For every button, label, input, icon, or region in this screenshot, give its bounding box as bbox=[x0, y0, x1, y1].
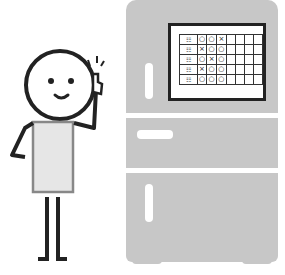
person-figure bbox=[0, 0, 125, 275]
row-label: ☷ bbox=[180, 65, 198, 75]
fridge-handle-middle bbox=[137, 130, 173, 139]
schedule-board: ☷○○×☷×○○☷○×○☷×○○☷○○○ bbox=[168, 23, 266, 101]
fridge-foot-left bbox=[132, 256, 162, 264]
grid-row: ☷○○○ bbox=[180, 75, 263, 85]
row-label: ☷ bbox=[180, 75, 198, 85]
grid-cell bbox=[235, 45, 244, 55]
fridge-handle-top bbox=[145, 63, 153, 99]
grid-cell bbox=[226, 35, 235, 45]
fridge-foot-right bbox=[242, 256, 272, 264]
grid-cell bbox=[253, 55, 262, 65]
row-label: ☷ bbox=[180, 35, 198, 45]
grid-cell: ○ bbox=[207, 35, 217, 45]
grid-cell bbox=[226, 55, 235, 65]
pointing-hand-icon bbox=[93, 74, 102, 94]
grid-row: ☷×○○ bbox=[180, 45, 263, 55]
grid-cell: × bbox=[197, 65, 207, 75]
grid-cell bbox=[244, 45, 253, 55]
grid-row: ☷×○○ bbox=[180, 65, 263, 75]
grid-cell bbox=[244, 55, 253, 65]
fridge-divider-top bbox=[126, 113, 278, 118]
grid-row: ☷○×○ bbox=[180, 55, 263, 65]
grid-row: ☷○○× bbox=[180, 35, 263, 45]
grid-cell: ○ bbox=[216, 75, 226, 85]
row-label: ☷ bbox=[180, 55, 198, 65]
grid-cell bbox=[244, 75, 253, 85]
shirt bbox=[33, 122, 73, 192]
grid-cell bbox=[235, 75, 244, 85]
grid-cell: ○ bbox=[197, 55, 207, 65]
grid-cell bbox=[253, 35, 262, 45]
grid-cell: ○ bbox=[197, 75, 207, 85]
schedule-grid: ☷○○×☷×○○☷○×○☷×○○☷○○○ bbox=[179, 34, 263, 85]
grid-cell: ○ bbox=[216, 65, 226, 75]
row-label: ☷ bbox=[180, 45, 198, 55]
grid-cell: × bbox=[207, 55, 217, 65]
grid-cell bbox=[226, 75, 235, 85]
grid-cell: ○ bbox=[216, 45, 226, 55]
grid-cell bbox=[235, 35, 244, 45]
grid-cell bbox=[226, 65, 235, 75]
grid-cell bbox=[253, 45, 262, 55]
grid-cell bbox=[253, 65, 262, 75]
grid-cell bbox=[253, 75, 262, 85]
grid-cell: ○ bbox=[207, 45, 217, 55]
grid-cell: ○ bbox=[207, 75, 217, 85]
head-icon bbox=[26, 51, 94, 119]
grid-cell: × bbox=[197, 45, 207, 55]
fridge-handle-bottom bbox=[145, 184, 153, 222]
grid-cell bbox=[244, 65, 253, 75]
grid-cell: ○ bbox=[197, 35, 207, 45]
grid-cell bbox=[226, 45, 235, 55]
illustration-scene: ☷○○×☷×○○☷○×○☷×○○☷○○○ bbox=[0, 0, 285, 275]
grid-cell bbox=[235, 65, 244, 75]
grid-cell: ○ bbox=[216, 55, 226, 65]
grid-cell bbox=[235, 55, 244, 65]
grid-cell bbox=[244, 35, 253, 45]
grid-cell: × bbox=[216, 35, 226, 45]
fridge-divider-bottom bbox=[126, 168, 278, 173]
grid-cell: ○ bbox=[207, 65, 217, 75]
